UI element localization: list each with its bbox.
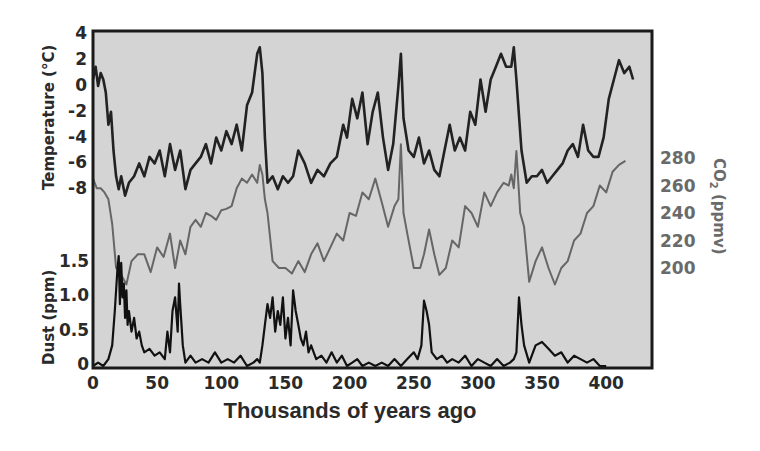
co2-axis-title: CO2 (ppmv) bbox=[708, 158, 728, 255]
x-tick-label: 400 bbox=[588, 373, 624, 393]
temperature-tick-label: 0 bbox=[75, 75, 87, 95]
x-tick-label: 100 bbox=[204, 373, 240, 393]
co2-tick-label: 220 bbox=[660, 231, 696, 251]
x-tick-label: 0 bbox=[87, 373, 99, 393]
x-tick-label: 200 bbox=[332, 373, 368, 393]
dust-tick-label: 1.5 bbox=[59, 251, 89, 271]
temperature-tick-label: 2 bbox=[75, 49, 87, 69]
x-tick-label: 300 bbox=[460, 373, 496, 393]
co2-tick-label: 240 bbox=[660, 203, 696, 223]
temperature-axis-title: Temperature (°C) bbox=[40, 45, 58, 190]
temperature-tick-label: -6 bbox=[68, 152, 87, 172]
dust-tick-label: 0.5 bbox=[59, 320, 89, 340]
dust-axis-ticks: 1.51.00.50 bbox=[59, 251, 89, 374]
temperature-axis-ticks: 420-2-4-6-8 bbox=[68, 23, 87, 198]
dust-tick-label: 1.0 bbox=[59, 285, 89, 305]
co2-axis-title-main: CO bbox=[710, 158, 728, 182]
co2-tick-label: 280 bbox=[660, 148, 696, 168]
co2-axis-title-subscript: 2 bbox=[708, 182, 719, 189]
x-tick-label: 350 bbox=[524, 373, 560, 393]
ice-core-chart: 420-2-4-6-8 1.51.00.50 280260240220200 0… bbox=[0, 0, 760, 451]
x-tick-label: 150 bbox=[268, 373, 304, 393]
temperature-tick-label: -8 bbox=[68, 178, 87, 198]
dust-tick-label: 0 bbox=[77, 354, 89, 374]
x-axis-ticks: 050100150200250300350400 bbox=[87, 373, 624, 393]
co2-axis-ticks: 280260240220200 bbox=[660, 148, 696, 278]
co2-tick-label: 200 bbox=[660, 258, 696, 278]
co2-tick-label: 260 bbox=[660, 176, 696, 196]
co2-axis-title-units: (ppmv) bbox=[710, 189, 728, 255]
x-tick-label: 250 bbox=[396, 373, 432, 393]
dust-axis-title: Dust (ppm) bbox=[40, 270, 58, 365]
x-axis-title: Thousands of years ago bbox=[223, 398, 476, 423]
temperature-tick-label: -2 bbox=[68, 101, 87, 121]
x-tick-label: 50 bbox=[145, 373, 169, 393]
temperature-tick-label: -4 bbox=[68, 127, 87, 147]
temperature-tick-label: 4 bbox=[75, 23, 87, 43]
